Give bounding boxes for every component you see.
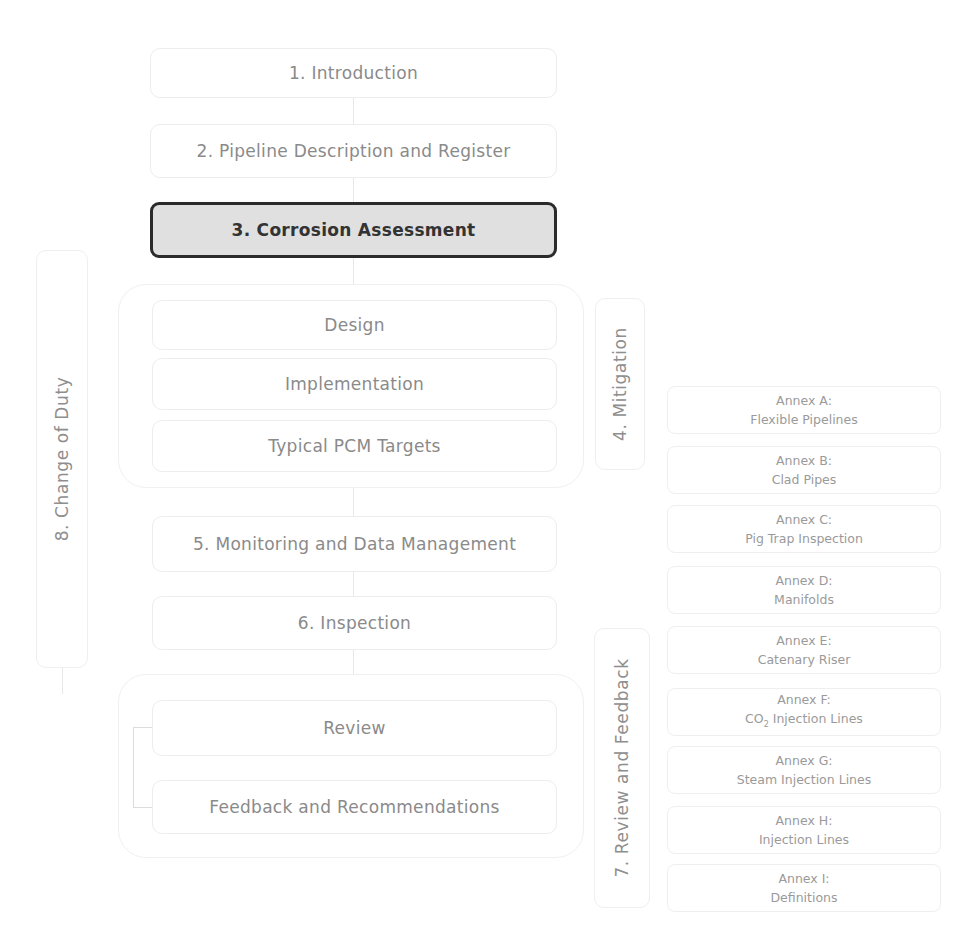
- connector-6-review: [353, 650, 354, 674]
- annex-e[interactable]: Annex E: Catenary Riser: [667, 626, 941, 674]
- connector-mitigation-5: [353, 488, 354, 516]
- annex-c-title: Annex C:: [776, 510, 832, 529]
- step-corrosion-assessment[interactable]: 3. Corrosion Assessment: [150, 202, 557, 258]
- mitigation-implementation[interactable]: Implementation: [152, 358, 557, 410]
- mitigation-implementation-label: Implementation: [285, 374, 424, 394]
- annex-i-title: Annex I:: [778, 869, 829, 888]
- annex-h-subtitle: Injection Lines: [759, 830, 849, 849]
- annex-i-subtitle: Definitions: [770, 888, 837, 907]
- change-of-duty-box[interactable]: 8. Change of Duty: [36, 250, 88, 668]
- mitigation-box[interactable]: 4. Mitigation: [595, 298, 645, 470]
- annex-i[interactable]: Annex I: Definitions: [667, 864, 941, 912]
- step-pipeline-description[interactable]: 2. Pipeline Description and Register: [150, 124, 557, 178]
- annex-g-title: Annex G:: [775, 751, 832, 770]
- connector-change-of-duty: [62, 668, 63, 694]
- step-inspection[interactable]: 6. Inspection: [152, 596, 557, 650]
- annex-e-subtitle: Catenary Riser: [758, 650, 851, 669]
- mitigation-label: 4. Mitigation: [610, 327, 630, 441]
- annex-b-subtitle: Clad Pipes: [772, 470, 837, 489]
- step-introduction[interactable]: 1. Introduction: [150, 48, 557, 98]
- step-pipeline-description-label: 2. Pipeline Description and Register: [197, 141, 511, 161]
- connector-3-mitigation: [353, 258, 354, 284]
- annex-h[interactable]: Annex H: Injection Lines: [667, 806, 941, 854]
- review-feedback-box[interactable]: 7. Review and Feedback: [594, 628, 650, 908]
- annex-h-title: Annex H:: [776, 811, 833, 830]
- annex-a-subtitle: Flexible Pipelines: [750, 410, 858, 429]
- feedback-item-label: Feedback and Recommendations: [209, 797, 499, 817]
- feedback-item[interactable]: Feedback and Recommendations: [152, 780, 557, 834]
- step-monitoring-label: 5. Monitoring and Data Management: [193, 534, 516, 554]
- annex-a[interactable]: Annex A: Flexible Pipelines: [667, 386, 941, 434]
- step-corrosion-assessment-label: 3. Corrosion Assessment: [232, 220, 476, 240]
- mitigation-design-label: Design: [324, 315, 385, 335]
- annex-f-title: Annex F:: [777, 690, 831, 709]
- annex-f-rest: Injection Lines: [769, 711, 863, 726]
- change-of-duty-label: 8. Change of Duty: [52, 377, 72, 542]
- connector-5-6: [353, 572, 354, 596]
- annex-g-subtitle: Steam Injection Lines: [737, 770, 871, 789]
- annex-d[interactable]: Annex D: Manifolds: [667, 566, 941, 614]
- review-feedback-label: 7. Review and Feedback: [612, 658, 632, 877]
- annex-c-subtitle: Pig Trap Inspection: [745, 529, 863, 548]
- annex-d-subtitle: Manifolds: [774, 590, 834, 609]
- step-introduction-label: 1. Introduction: [289, 63, 418, 83]
- mitigation-design[interactable]: Design: [152, 300, 557, 350]
- review-item-label: Review: [323, 718, 385, 738]
- annex-f[interactable]: Annex F: CO2 Injection Lines: [667, 688, 941, 736]
- annex-b[interactable]: Annex B: Clad Pipes: [667, 446, 941, 494]
- annex-d-title: Annex D:: [775, 571, 832, 590]
- mitigation-typical-pcm-targets-label: Typical PCM Targets: [268, 436, 441, 456]
- review-item[interactable]: Review: [152, 700, 557, 756]
- connector-2-3: [353, 178, 354, 202]
- annex-f-co: CO: [745, 711, 764, 726]
- annex-g[interactable]: Annex G: Steam Injection Lines: [667, 746, 941, 794]
- step-inspection-label: 6. Inspection: [298, 613, 411, 633]
- mitigation-typical-pcm-targets[interactable]: Typical PCM Targets: [152, 420, 557, 472]
- step-monitoring[interactable]: 5. Monitoring and Data Management: [152, 516, 557, 572]
- annex-e-title: Annex E:: [776, 631, 831, 650]
- annex-f-subtitle: CO2 Injection Lines: [745, 709, 863, 734]
- annex-b-title: Annex B:: [776, 451, 832, 470]
- connector-1-2: [353, 98, 354, 124]
- annex-c[interactable]: Annex C: Pig Trap Inspection: [667, 505, 941, 553]
- annex-a-title: Annex A:: [776, 391, 832, 410]
